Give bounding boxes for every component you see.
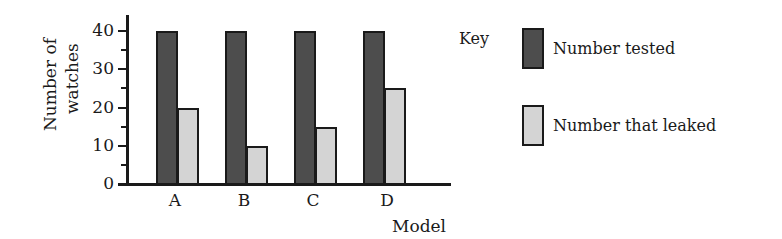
y-minor-tick <box>121 164 127 166</box>
y-major-tick <box>118 145 127 147</box>
bar-B-tested <box>225 31 247 185</box>
bar-A-leaked <box>177 108 199 186</box>
y-major-tick <box>118 68 127 70</box>
y-minor-tick <box>121 126 127 128</box>
y-tick-label: 10 <box>84 137 114 154</box>
y-tick-label: 40 <box>84 22 114 39</box>
y-axis-label-line-2: watches <box>62 43 82 114</box>
y-tick-label: 20 <box>84 99 114 116</box>
legend-swatch-tested <box>522 28 544 69</box>
y-major-tick <box>118 183 127 185</box>
bar-A-tested <box>156 31 178 185</box>
bar-chart: Number of watches 010203040 ABCD Model K… <box>0 0 782 239</box>
y-major-tick <box>118 107 127 109</box>
y-axis-label: Number of watches <box>36 30 96 150</box>
x-category-label: C <box>293 190 333 210</box>
y-tick-label: 0 <box>84 175 114 192</box>
y-tick-label: 30 <box>84 60 114 77</box>
legend-label-tested: Number tested <box>553 39 675 58</box>
bar-B-leaked <box>246 146 268 185</box>
bar-C-tested <box>294 31 316 185</box>
bar-D-leaked <box>384 88 406 185</box>
y-axis <box>126 15 129 186</box>
x-category-label: A <box>155 190 195 210</box>
x-category-label: B <box>224 190 264 210</box>
bar-D-tested <box>363 31 385 185</box>
y-axis-label-line-1: Number of <box>40 38 60 131</box>
legend-swatch-leaked <box>522 105 544 146</box>
y-minor-tick <box>121 49 127 51</box>
x-axis-label: Model <box>392 216 446 236</box>
x-category-label: D <box>367 190 407 210</box>
legend-label-leaked: Number that leaked <box>553 116 716 135</box>
legend-title: Key <box>459 29 489 48</box>
y-minor-tick <box>121 87 127 89</box>
y-major-tick <box>118 30 127 32</box>
bar-C-leaked <box>315 127 337 185</box>
